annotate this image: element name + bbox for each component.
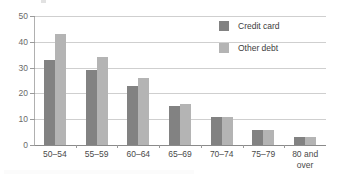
x-axis-tick-mark (117, 145, 118, 148)
y-axis-tick-mark (30, 68, 35, 69)
x-axis-line (34, 145, 326, 146)
legend-label: Credit card (238, 22, 280, 31)
bar-other-debt (263, 130, 274, 145)
plot-area (34, 16, 326, 145)
cropped-caption-artifact (4, 170, 194, 174)
y-axis-tick-mark (30, 42, 35, 43)
cropped-title-artifact (41, 0, 46, 3)
bar-group (284, 16, 326, 145)
y-axis-tick-label: 50 (4, 12, 28, 21)
chart-legend: Credit cardOther debt (219, 21, 280, 65)
y-axis-tick-label: 10 (4, 115, 28, 124)
legend-item: Credit card (219, 21, 280, 31)
bar-group (76, 16, 118, 145)
y-axis-tick-label: 0 (4, 141, 28, 150)
x-axis-tick-mark (243, 145, 244, 148)
bar-other-debt (138, 78, 149, 145)
legend-item: Other debt (219, 43, 280, 53)
y-axis-label-group: 01020304050 (0, 0, 28, 178)
y-axis-tick-label: 20 (4, 89, 28, 98)
bar-credit-card (252, 130, 263, 145)
y-axis-tick-mark (30, 93, 35, 94)
bar-other-debt (97, 57, 108, 145)
bar-credit-card (211, 117, 222, 145)
y-axis-tick-label: 40 (4, 38, 28, 47)
bar-other-debt (222, 117, 233, 145)
x-axis-tick-mark (284, 145, 285, 148)
bar-group (34, 16, 76, 145)
x-axis-tick-mark (76, 145, 77, 148)
legend-label: Other debt (238, 44, 278, 53)
y-axis-tick-label: 30 (4, 63, 28, 72)
legend-swatch-credit-card-icon (219, 21, 229, 31)
bar-group (159, 16, 201, 145)
y-axis-tick-mark (30, 119, 35, 120)
bar-credit-card (127, 86, 138, 145)
bar-credit-card (44, 60, 55, 145)
bar-other-debt (180, 104, 191, 145)
bar-credit-card (86, 70, 97, 145)
legend-swatch-other-debt-icon (219, 43, 229, 53)
y-axis-tick-mark (30, 16, 35, 17)
y-axis-tick-mark (30, 145, 35, 146)
bar-other-debt (305, 137, 316, 145)
bar-credit-card (169, 106, 180, 145)
bar-group (117, 16, 159, 145)
bar-credit-card (294, 137, 305, 145)
bar-other-debt (55, 34, 66, 145)
x-axis-tick-mark (159, 145, 160, 148)
x-axis-tick-mark (201, 145, 202, 148)
bar-chart: 01020304050 50–5455–5960–6465–6970–7475–… (0, 0, 337, 178)
x-axis-tick-label: 80 andover (279, 149, 331, 170)
